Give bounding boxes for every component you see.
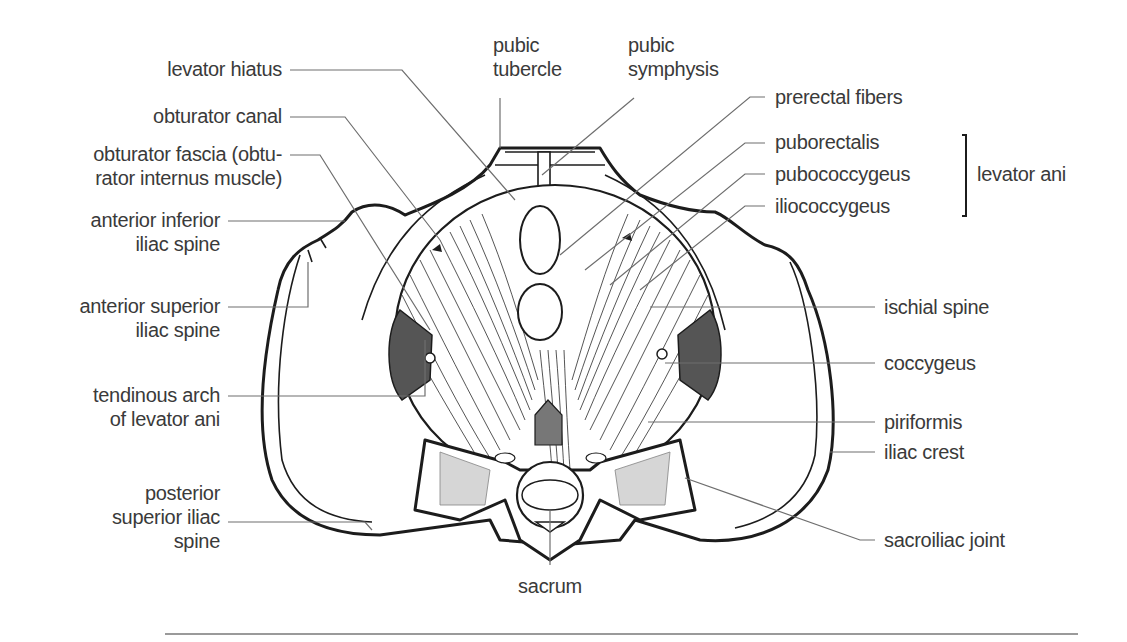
label-posterior-superior-iliac-spine: posterior superior iliac spine [112, 481, 220, 553]
label-sacrum: sacrum [510, 574, 590, 598]
label-levator-hiatus: levator hiatus [167, 57, 282, 81]
label-obturator-fascia-line1: obturator fascia (obtu- [93, 142, 282, 166]
label-obturator-fascia-line2: rator internus muscle) [93, 166, 282, 190]
label-psis-line2: superior iliac [112, 505, 220, 529]
label-psis-line3: spine [112, 529, 220, 553]
bottom-divider-rule [165, 633, 1078, 635]
label-pubic-tubercle: pubic tubercle [493, 33, 562, 81]
label-pubococcygeus: pubococcygeus [775, 162, 910, 186]
label-ischial-spine: ischial spine [884, 295, 989, 319]
label-pubic-tubercle-line2: tubercle [493, 57, 562, 81]
label-aiis-line1: anterior inferior [91, 208, 220, 232]
label-pubic-symphysis: pubic symphysis [628, 33, 719, 81]
label-puborectalis: puborectalis [775, 130, 879, 154]
label-iliococcygeus: iliococcygeus [775, 194, 890, 218]
label-prerectal-fibers: prerectal fibers [775, 85, 902, 109]
label-psis-line1: posterior [112, 481, 220, 505]
label-sacroiliac-joint: sacroiliac joint [884, 528, 1005, 552]
label-coccygeus: coccygeus [884, 351, 976, 375]
label-pubic-symphysis-line2: symphysis [628, 57, 719, 81]
label-tendinous-arch-line2: of levator ani [93, 407, 220, 431]
label-iliac-crest: iliac crest [884, 440, 964, 464]
label-tendinous-arch-line1: tendinous arch [93, 383, 220, 407]
label-asis-line2: iliac spine [79, 318, 220, 342]
label-anterior-inferior-iliac-spine: anterior inferior iliac spine [91, 208, 220, 256]
label-tendinous-arch: tendinous arch of levator ani [93, 383, 220, 431]
label-piriformis: piriformis [884, 410, 962, 434]
pelvic-floor-figure: levator hiatus obturator canal obturator… [0, 0, 1127, 642]
label-obturator-fascia: obturator fascia (obtu- rator internus m… [93, 142, 282, 190]
label-pubic-symphysis-line1: pubic [628, 33, 719, 57]
label-asis-line1: anterior superior [79, 294, 220, 318]
label-levator-ani-group: levator ani [977, 162, 1066, 186]
label-anterior-superior-iliac-spine: anterior superior iliac spine [79, 294, 220, 342]
label-aiis-line2: iliac spine [91, 232, 220, 256]
label-pubic-tubercle-line1: pubic [493, 33, 562, 57]
label-obturator-canal: obturator canal [153, 104, 282, 128]
